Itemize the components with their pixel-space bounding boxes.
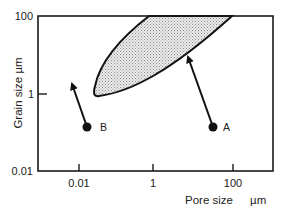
- x-axis-unit: µm: [250, 194, 266, 206]
- shaded-region: [94, 16, 232, 96]
- point-b-label: B: [100, 121, 107, 133]
- y-axis-title: Grain size µm: [12, 57, 24, 128]
- x-tick-label-100: 100: [224, 177, 242, 189]
- x-tick-label-1: 1: [150, 177, 156, 189]
- point-a-label: A: [223, 121, 230, 133]
- arrow-a: [188, 57, 213, 127]
- y-tick-label-100: 100: [15, 10, 33, 22]
- x-axis-title: Pore size: [185, 194, 233, 206]
- x-tick-label-001: 0.01: [68, 177, 89, 189]
- y-tick-label-1: 1: [28, 88, 34, 100]
- chart: 100 1 0.01 0.01 1 100 Pore size µm Grain…: [0, 0, 287, 213]
- point-b-marker: [83, 123, 92, 132]
- point-a-marker: [209, 123, 218, 132]
- y-tick-label-001: 0.01: [12, 165, 33, 177]
- arrow-b: [72, 84, 87, 127]
